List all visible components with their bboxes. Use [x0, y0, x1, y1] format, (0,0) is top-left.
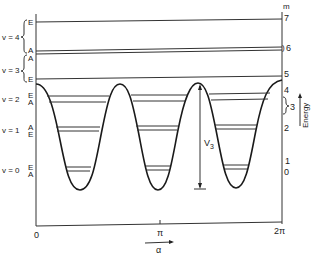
right-labels: m 7 ) 6 5 4 3 2 1 0 Energy: [282, 2, 310, 177]
left-labels: v = 4 v = 3 v = 2 v = 1 v = 0 E A A E E …: [2, 18, 34, 179]
x-tick-0: 0: [34, 230, 39, 240]
alpha-arrow-head: [169, 240, 174, 244]
v3-E-label: E: [28, 75, 33, 84]
energy-diagram: V3 v = 4 v = 3 v = 2 v = 1 v = 0 E A A E…: [0, 0, 312, 254]
m-header: m: [283, 2, 290, 11]
energy-arrow-head: [298, 93, 302, 98]
v2-A-label: A: [28, 98, 34, 107]
v4-E-label: E: [28, 18, 33, 27]
m6-label: 6: [286, 43, 291, 53]
v4-brace: [21, 20, 27, 53]
m2-label: 2: [284, 123, 289, 133]
baseline-axis: [36, 222, 282, 226]
m7-label: 7: [284, 13, 289, 23]
v3-A-label: A: [28, 54, 34, 63]
alpha-arrow: [145, 242, 172, 243]
v0-A-label: A: [28, 170, 34, 179]
x-tick-2pi: 2π: [274, 226, 285, 236]
well-levels: [47, 93, 270, 171]
v2-label: v = 2: [2, 95, 20, 104]
x-tick-pi: π: [157, 228, 163, 238]
energy-title: Energy: [301, 103, 310, 128]
m1-label: 1: [285, 156, 290, 166]
x-axis-label: α: [156, 245, 161, 254]
v3-brace: [21, 55, 27, 82]
v0-label: v = 0: [2, 166, 20, 175]
m3-brace: [283, 97, 289, 114]
v1-E-label: E: [28, 130, 33, 139]
m6-brace: ): [282, 43, 285, 52]
m3-label: 3: [290, 102, 295, 112]
m5-label: 5: [284, 69, 289, 79]
m4-label: 4: [284, 85, 289, 95]
level-v3-E: [36, 76, 282, 79]
level-v4-E: [36, 19, 282, 22]
v4-label: v = 4: [2, 33, 20, 42]
v1-label: v = 1: [2, 126, 20, 135]
barrier-label: V3: [204, 138, 214, 150]
barrier-arrow-head-down: [198, 183, 202, 189]
m0-label: 0: [284, 167, 289, 177]
v3-label: v = 3: [2, 66, 20, 75]
